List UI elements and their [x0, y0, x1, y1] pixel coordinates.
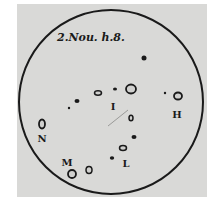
sunspot: [164, 92, 166, 94]
sunspots: [39, 56, 182, 179]
sunspot: [95, 91, 102, 95]
sunspot: [39, 120, 45, 129]
spot-label-i: I: [111, 101, 116, 112]
sunspot: [75, 99, 80, 103]
sunspot: [120, 146, 127, 151]
sunspot: [68, 107, 70, 109]
sunspot-drawing: 2.Nou. h.8. IHNML: [0, 0, 218, 213]
spot-labels: IHNML: [37, 101, 181, 169]
sunspot: [129, 115, 133, 121]
sunspot: [126, 85, 136, 94]
sunspot: [113, 87, 117, 90]
sunspot: [142, 56, 147, 61]
spot-label-l: L: [122, 158, 129, 169]
sunspot: [132, 135, 137, 139]
spot-label-m: M: [61, 157, 72, 168]
paper-scratch: [108, 110, 128, 126]
sunspot: [68, 170, 76, 178]
sunspot: [110, 156, 114, 160]
spot-label-n: N: [37, 133, 46, 144]
spot-label-h: H: [172, 109, 181, 120]
sunspot: [86, 167, 92, 174]
drawing-caption: 2.Nou. h.8.: [56, 31, 125, 44]
sunspot: [174, 93, 182, 100]
